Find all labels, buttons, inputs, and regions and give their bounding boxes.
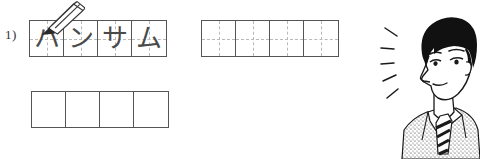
katakana-glyph <box>32 92 65 127</box>
grid-cell[interactable] <box>236 21 270 56</box>
katakana-glyph <box>66 92 99 127</box>
pencil-icon <box>33 1 85 35</box>
grid-cell[interactable]: サ <box>98 21 132 56</box>
grid-cell[interactable]: ム <box>132 21 166 56</box>
grid-cell[interactable] <box>304 21 338 56</box>
katakana-glyph <box>202 21 235 56</box>
handsome-man-portrait <box>378 4 480 159</box>
katakana-glyph <box>134 92 168 127</box>
grid-cell[interactable] <box>202 21 236 56</box>
emphasis-lines <box>381 28 398 98</box>
katakana-glyph <box>270 21 303 56</box>
grid-cell[interactable] <box>100 92 134 127</box>
grid-cell[interactable] <box>32 92 66 127</box>
blank-grid[interactable] <box>31 91 169 128</box>
grid-cell[interactable] <box>66 92 100 127</box>
katakana-glyph: サ <box>98 21 131 56</box>
katakana-glyph <box>304 21 338 56</box>
ear <box>465 62 471 75</box>
item-number: 1) <box>5 28 17 41</box>
katakana-glyph <box>100 92 133 127</box>
grid-cell[interactable] <box>270 21 304 56</box>
practice-grid[interactable] <box>201 20 339 57</box>
grid-cell[interactable] <box>134 92 168 127</box>
katakana-glyph: ム <box>132 21 166 56</box>
katakana-glyph <box>236 21 269 56</box>
